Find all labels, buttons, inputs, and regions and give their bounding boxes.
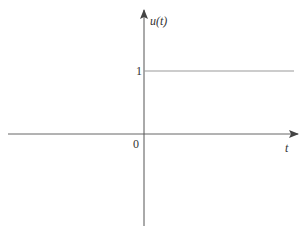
origin-label: 0 bbox=[133, 137, 139, 151]
level-label: 1 bbox=[136, 64, 142, 78]
unit-step-diagram: u(t) 1 0 t bbox=[0, 0, 306, 232]
y-axis-label: u(t) bbox=[150, 14, 167, 28]
x-axis-label: t bbox=[285, 141, 289, 155]
